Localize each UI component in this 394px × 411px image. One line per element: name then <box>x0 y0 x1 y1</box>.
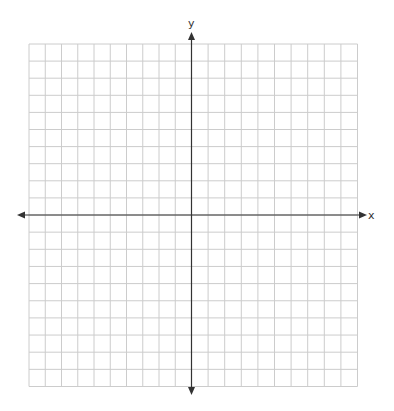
x-axis-label: x <box>368 209 375 222</box>
y-axis-up-arrow-icon <box>188 32 195 40</box>
x-axis: x <box>17 209 375 222</box>
y-axis: y <box>188 17 195 395</box>
x-axis-left-arrow-icon <box>17 212 25 219</box>
x-axis-right-arrow-icon <box>359 212 367 219</box>
y-axis-down-arrow-icon <box>188 387 195 395</box>
coordinate-plane: x y <box>0 0 394 411</box>
y-axis-label: y <box>188 17 195 30</box>
